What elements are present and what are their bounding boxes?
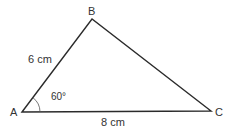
vertex-label-a: A — [10, 106, 18, 118]
side-ab-label: 6 cm — [28, 53, 52, 65]
triangle-diagram: B A C 6 cm 60° 8 cm — [0, 0, 235, 134]
angle-a-label: 60° — [51, 91, 66, 102]
angle-arc-a — [33, 98, 40, 112]
vertex-label-b: B — [88, 5, 95, 17]
vertex-label-c: C — [215, 106, 223, 118]
side-ac-label: 8 cm — [101, 116, 125, 128]
